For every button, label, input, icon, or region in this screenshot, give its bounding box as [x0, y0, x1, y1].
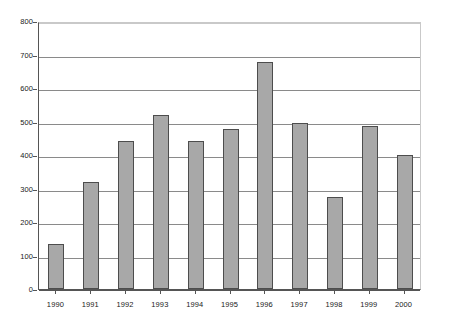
- bar: [223, 129, 239, 289]
- x-axis-tick-label: 1998: [325, 301, 342, 309]
- x-axis-tick-mark: [195, 290, 196, 294]
- x-axis-tick-mark: [90, 290, 91, 294]
- y-axis-tick-mark: [33, 156, 37, 157]
- y-axis-tick-mark: [33, 257, 37, 258]
- x-axis-label-group: 1990199119921993199419951996199719981999…: [38, 301, 422, 315]
- x-axis-tick-mark: [230, 290, 231, 294]
- x-axis-tick-mark: [160, 290, 161, 294]
- x-axis-tick-label: 1996: [256, 301, 273, 309]
- x-axis-tick-label: 1999: [360, 301, 377, 309]
- x-axis-tick-mark: [334, 290, 335, 294]
- x-axis-tick-label: 1991: [82, 301, 99, 309]
- bar-chart: 0100200300400500600700800 19901991199219…: [0, 0, 449, 325]
- y-axis-tick-group: [0, 22, 38, 290]
- x-axis-tick-label: 1993: [151, 301, 168, 309]
- x-axis-tick-mark: [299, 290, 300, 294]
- bar: [257, 62, 273, 289]
- bar: [327, 197, 343, 289]
- x-axis-tick-label: 1997: [291, 301, 308, 309]
- gridline: [39, 57, 420, 58]
- bar: [188, 141, 204, 289]
- x-axis-tick-mark: [55, 290, 56, 294]
- gridline: [39, 23, 420, 24]
- x-axis-tick-mark: [264, 290, 265, 294]
- gridline: [39, 90, 420, 91]
- x-axis-tick-mark: [125, 290, 126, 294]
- y-axis-tick-mark: [33, 89, 37, 90]
- y-axis-tick-mark: [33, 56, 37, 57]
- bar: [83, 182, 99, 289]
- x-axis-tick-label: 1992: [116, 301, 133, 309]
- x-axis-tick-label: 1990: [47, 301, 64, 309]
- x-axis-tick-label: 2000: [395, 301, 412, 309]
- x-axis-tick-group: [38, 290, 422, 295]
- x-axis-tick-mark: [369, 290, 370, 294]
- gridline: [39, 124, 420, 125]
- bar: [292, 123, 308, 289]
- bar: [362, 126, 378, 289]
- y-axis-tick-mark: [33, 123, 37, 124]
- x-axis-tick-mark: [404, 290, 405, 294]
- y-axis-tick-mark: [33, 290, 37, 291]
- x-axis-tick-label: 1995: [221, 301, 238, 309]
- bar: [48, 244, 64, 289]
- y-axis-tick-mark: [33, 190, 37, 191]
- plot-area: [38, 22, 421, 290]
- bar: [153, 115, 169, 289]
- y-axis-tick-mark: [33, 223, 37, 224]
- bar: [118, 141, 134, 289]
- x-axis-tick-label: 1994: [186, 301, 203, 309]
- y-axis-tick-mark: [33, 22, 37, 23]
- bar: [397, 155, 413, 289]
